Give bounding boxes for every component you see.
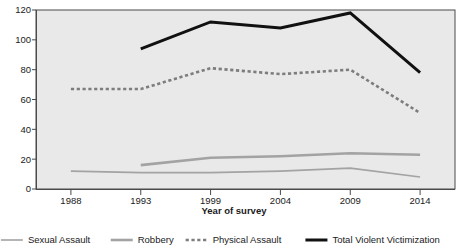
legend-label-total-violent-victimization: Total Violent Victimization bbox=[332, 234, 439, 245]
y-axis-tick-label: 80 bbox=[20, 64, 31, 75]
x-axis-tick-label: 2014 bbox=[410, 195, 431, 206]
y-axis-tick-label: 100 bbox=[15, 34, 31, 45]
y-axis-tick-label: 0 bbox=[26, 183, 31, 194]
legend-label-sexual-assault: Sexual Assault bbox=[28, 234, 91, 245]
legend-label-robbery: Robbery bbox=[138, 234, 174, 245]
chart-legend: Sexual AssaultRobberyPhysical AssaultTot… bbox=[1, 234, 440, 245]
y-axis-tick-label: 20 bbox=[20, 154, 31, 165]
x-axis-tick-label: 1993 bbox=[130, 195, 151, 206]
y-axis-tick-label: 40 bbox=[20, 124, 31, 135]
x-axis-tick-label: 1988 bbox=[60, 195, 81, 206]
x-axis-tick-label: 2004 bbox=[270, 195, 291, 206]
line-chart: 020406080100120 198819931999200420092014… bbox=[0, 0, 468, 251]
legend-label-physical-assault: Physical Assault bbox=[213, 234, 282, 245]
y-axis-tick-label: 60 bbox=[20, 94, 31, 105]
x-axis-title: Year of survey bbox=[202, 205, 268, 216]
x-axis-tick-label: 2009 bbox=[340, 195, 361, 206]
plot-area-background bbox=[36, 10, 455, 189]
y-axis-tick-label: 120 bbox=[15, 4, 31, 15]
chart-container: 020406080100120 198819931999200420092014… bbox=[0, 0, 468, 251]
